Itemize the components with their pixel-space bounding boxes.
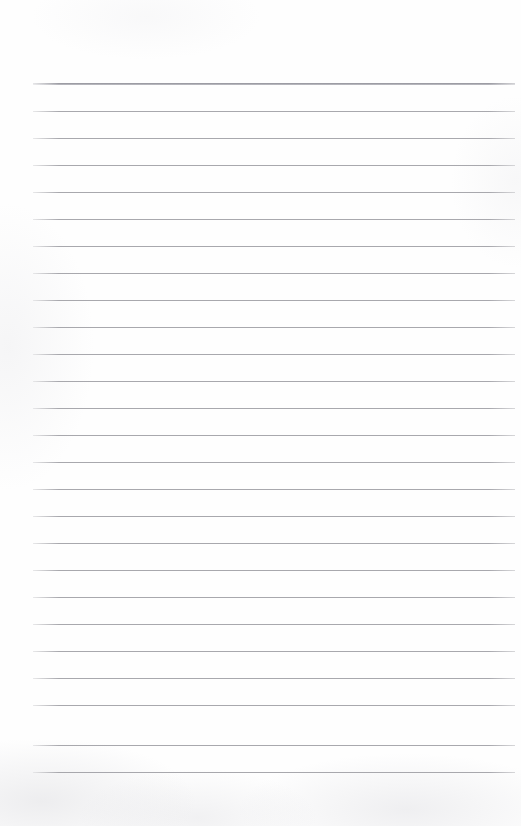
writing-area[interactable] (33, 84, 515, 773)
notebook-page (0, 0, 521, 826)
